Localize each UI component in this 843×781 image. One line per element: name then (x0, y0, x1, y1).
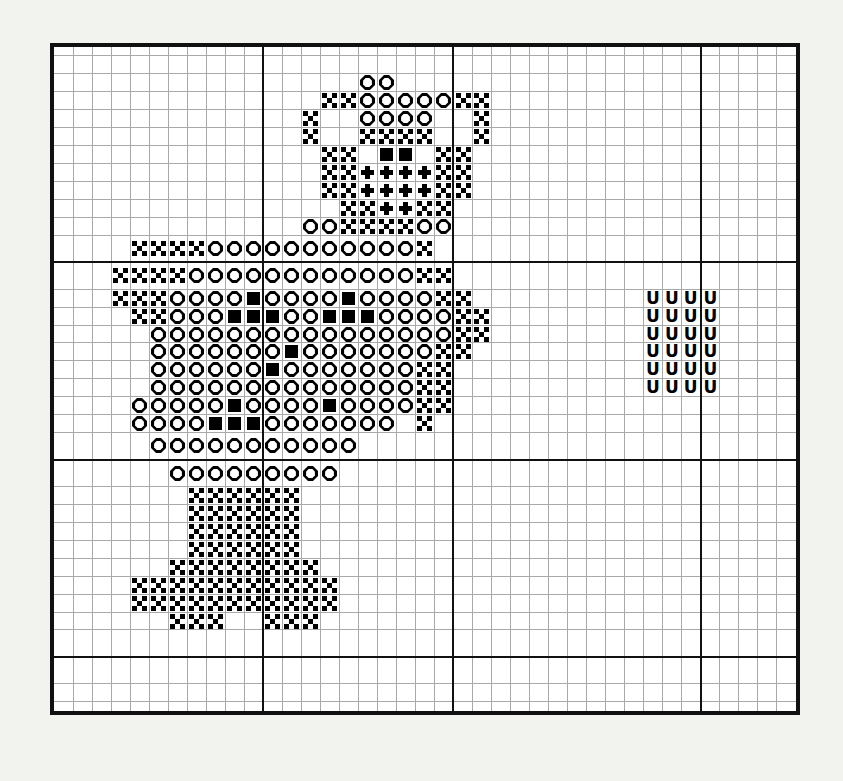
stitch-cell[interactable] (701, 540, 720, 558)
stitch-cell[interactable] (567, 576, 586, 594)
stitch-cell[interactable] (510, 415, 529, 433)
stitch-cell[interactable] (187, 110, 206, 128)
stitch-cell[interactable] (548, 415, 567, 433)
stitch-cell[interactable] (339, 56, 358, 74)
stitch-cell[interactable] (472, 146, 491, 164)
stitch-cell[interactable] (434, 199, 453, 217)
stitch-cell[interactable] (548, 325, 567, 343)
stitch-cell[interactable] (720, 307, 739, 325)
stitch-cell[interactable] (529, 612, 548, 630)
stitch-cell[interactable] (453, 460, 472, 487)
stitch-cell[interactable] (358, 576, 377, 594)
stitch-cell[interactable] (586, 361, 605, 379)
stitch-cell[interactable] (282, 397, 301, 415)
stitch-cell[interactable] (758, 325, 777, 343)
stitch-cell[interactable] (548, 307, 567, 325)
stitch-cell[interactable] (301, 397, 320, 415)
stitch-cell[interactable] (510, 397, 529, 415)
stitch-cell[interactable] (758, 657, 777, 684)
stitch-cell[interactable] (187, 74, 206, 92)
stitch-cell[interactable] (92, 235, 111, 262)
stitch-cell[interactable] (663, 522, 682, 540)
stitch-cell[interactable] (168, 182, 187, 200)
stitch-cell[interactable] (187, 397, 206, 415)
stitch-cell[interactable] (320, 110, 339, 128)
stitch-cell[interactable] (301, 702, 320, 711)
stitch-cell[interactable] (453, 540, 472, 558)
stitch-cell[interactable] (111, 379, 130, 397)
stitch-cell[interactable] (643, 199, 662, 217)
stitch-cell[interactable] (282, 702, 301, 711)
stitch-cell[interactable] (396, 460, 415, 487)
stitch-cell[interactable] (472, 612, 491, 630)
stitch-cell[interactable] (510, 460, 529, 487)
stitch-cell[interactable] (682, 92, 701, 110)
stitch-cell[interactable] (73, 74, 92, 92)
stitch-cell[interactable] (54, 558, 73, 576)
stitch-cell[interactable] (605, 486, 624, 504)
stitch-cell[interactable] (739, 684, 758, 702)
stitch-cell[interactable] (149, 235, 168, 262)
stitch-cell[interactable] (73, 486, 92, 504)
stitch-cell[interactable] (643, 56, 662, 74)
stitch-cell[interactable] (415, 460, 434, 487)
stitch-cell[interactable] (472, 594, 491, 612)
stitch-cell[interactable] (396, 684, 415, 702)
stitch-cell[interactable] (149, 361, 168, 379)
stitch-cell[interactable] (187, 307, 206, 325)
stitch-cell[interactable] (149, 397, 168, 415)
stitch-cell[interactable] (663, 415, 682, 433)
stitch-cell[interactable] (54, 576, 73, 594)
stitch-cell[interactable] (377, 504, 396, 522)
stitch-cell[interactable] (263, 235, 282, 262)
stitch-cell[interactable] (130, 289, 149, 307)
stitch-cell[interactable] (663, 594, 682, 612)
stitch-cell[interactable] (415, 164, 434, 182)
stitch-cell[interactable] (472, 74, 491, 92)
stitch-cell[interactable] (739, 630, 758, 657)
stitch-cell[interactable] (54, 164, 73, 182)
stitch-cell[interactable] (548, 630, 567, 657)
stitch-cell[interactable] (586, 558, 605, 576)
stitch-cell[interactable] (263, 540, 282, 558)
stitch-cell[interactable] (624, 343, 643, 361)
stitch-cell[interactable] (472, 56, 491, 74)
stitch-cell[interactable] (605, 612, 624, 630)
stitch-cell[interactable] (415, 92, 434, 110)
stitch-cell[interactable] (624, 146, 643, 164)
stitch-cell[interactable] (491, 164, 510, 182)
stitch-cell[interactable] (739, 558, 758, 576)
stitch-cell[interactable] (605, 522, 624, 540)
stitch-cell[interactable] (701, 576, 720, 594)
stitch-cell[interactable] (586, 433, 605, 460)
stitch-cell[interactable] (567, 361, 586, 379)
stitch-cell[interactable] (206, 684, 225, 702)
stitch-cell[interactable] (73, 217, 92, 235)
stitch-cell[interactable] (244, 343, 263, 361)
stitch-cell[interactable] (263, 325, 282, 343)
stitch-cell[interactable] (720, 397, 739, 415)
stitch-cell[interactable]: U (643, 289, 662, 307)
stitch-cell[interactable] (663, 540, 682, 558)
stitch-cell[interactable] (206, 522, 225, 540)
stitch-cell[interactable] (624, 307, 643, 325)
stitch-cell[interactable] (244, 576, 263, 594)
stitch-cell[interactable] (73, 397, 92, 415)
stitch-cell[interactable] (168, 379, 187, 397)
stitch-cell[interactable] (54, 92, 73, 110)
stitch-cell[interactable] (682, 702, 701, 711)
stitch-cell[interactable] (529, 522, 548, 540)
stitch-cell[interactable] (301, 262, 320, 289)
stitch-cell[interactable] (663, 433, 682, 460)
stitch-cell[interactable] (415, 415, 434, 433)
stitch-cell[interactable] (739, 262, 758, 289)
stitch-cell[interactable] (529, 325, 548, 343)
stitch-cell[interactable] (396, 415, 415, 433)
stitch-cell[interactable] (643, 262, 662, 289)
stitch-cell[interactable] (567, 504, 586, 522)
stitch-cell[interactable] (415, 486, 434, 504)
stitch-cell[interactable] (624, 486, 643, 504)
stitch-cell[interactable] (491, 379, 510, 397)
stitch-cell[interactable] (529, 182, 548, 200)
stitch-cell[interactable] (187, 630, 206, 657)
